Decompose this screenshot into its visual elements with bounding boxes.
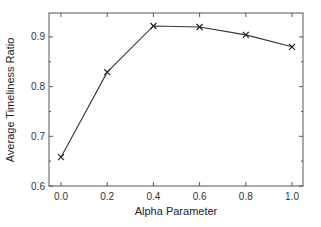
y-axis-label: Average Timeliness Ratio bbox=[4, 38, 16, 163]
x-tick-label: 0.4 bbox=[146, 191, 160, 202]
y-tick-label: 0.6 bbox=[31, 181, 45, 192]
x-tick-label: 1.0 bbox=[285, 191, 299, 202]
x-tick-label: 0.8 bbox=[239, 191, 253, 202]
x-axis-ticks: 0.00.20.40.60.81.0 bbox=[54, 13, 299, 202]
x-tick-label: 0.6 bbox=[193, 191, 207, 202]
data-markers bbox=[58, 23, 295, 160]
y-tick-label: 0.7 bbox=[31, 131, 45, 142]
y-axis-ticks: 0.60.70.80.9 bbox=[31, 31, 303, 191]
y-tick-label: 0.8 bbox=[31, 81, 45, 92]
x-marker-icon bbox=[58, 154, 64, 160]
x-axis-label: Alpha Parameter bbox=[135, 205, 218, 217]
plot-frame bbox=[49, 13, 303, 186]
x-tick-label: 0.2 bbox=[100, 191, 114, 202]
y-tick-label: 0.9 bbox=[31, 31, 45, 42]
x-marker-icon bbox=[104, 69, 110, 75]
line-chart: 0.00.20.40.60.81.0 0.60.70.80.9 Alpha Pa… bbox=[0, 0, 321, 227]
data-line bbox=[61, 26, 292, 157]
x-tick-label: 0.0 bbox=[54, 191, 68, 202]
